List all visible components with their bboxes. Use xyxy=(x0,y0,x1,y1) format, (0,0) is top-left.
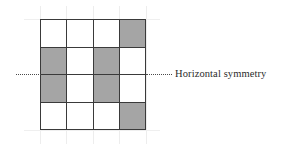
grid-cell xyxy=(67,103,93,131)
symmetry-axis-left-segment xyxy=(16,74,41,75)
grid-cell xyxy=(41,103,67,131)
grid-cell xyxy=(94,75,120,103)
grid-cell xyxy=(41,20,67,48)
grid-cell xyxy=(120,103,146,131)
grid-cell xyxy=(120,48,146,76)
guide-line-horizontal xyxy=(24,130,160,131)
grid-cell xyxy=(120,75,146,103)
grid-cell xyxy=(67,20,93,48)
guide-line-vertical xyxy=(146,6,147,144)
grid-cell xyxy=(94,103,120,131)
grid-cell xyxy=(67,48,93,76)
symmetry-grid xyxy=(40,19,146,130)
grid-cell xyxy=(94,20,120,48)
grid-container xyxy=(40,19,146,130)
grid-cell xyxy=(41,48,67,76)
symmetry-axis-right-segment xyxy=(146,74,172,75)
grid-cell xyxy=(41,75,67,103)
grid-cell xyxy=(67,75,93,103)
grid-cell xyxy=(94,48,120,76)
symmetry-figure: Horizontal symmetry xyxy=(0,0,291,148)
grid-cell xyxy=(120,20,146,48)
symmetry-axis-label: Horizontal symmetry xyxy=(175,67,266,80)
